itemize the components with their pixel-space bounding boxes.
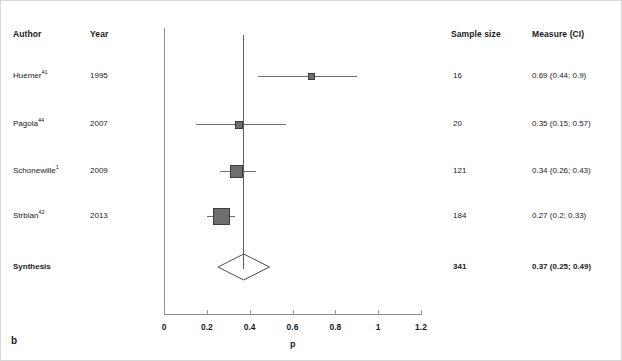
- study-estimate-marker: [308, 73, 315, 80]
- reference-line: [243, 35, 244, 269]
- study-estimate-marker: [235, 121, 243, 129]
- x-axis-tick-label: 0.8: [315, 322, 355, 332]
- y-axis-spine: [164, 28, 165, 314]
- forest-plot-figure: Author Year Sample size Measure (CI) Hue…: [0, 0, 622, 361]
- panel-label: b: [11, 335, 17, 346]
- plot-area: 00.20.40.60.811.2: [1, 1, 622, 361]
- x-axis-tick: [207, 310, 208, 314]
- x-axis-tick: [293, 310, 294, 314]
- x-axis-tick-label: 1.2: [401, 322, 441, 332]
- study-estimate-marker: [213, 208, 230, 225]
- x-axis-tick-label: 0: [144, 322, 184, 332]
- x-axis-tick: [421, 310, 422, 314]
- x-axis-spine: [164, 314, 422, 315]
- x-axis-tick-label: 0.4: [230, 322, 270, 332]
- x-axis-tick: [378, 310, 379, 314]
- summary-diamond: [216, 252, 271, 282]
- x-axis-title: p: [290, 339, 296, 349]
- x-axis-tick-label: 0.6: [273, 322, 313, 332]
- study-estimate-marker: [230, 165, 243, 178]
- x-axis-tick: [250, 310, 251, 314]
- x-axis-tick: [335, 310, 336, 314]
- x-axis-tick: [164, 310, 165, 314]
- x-axis-tick-label: 1: [358, 322, 398, 332]
- x-axis-tick-label: 0.2: [187, 322, 227, 332]
